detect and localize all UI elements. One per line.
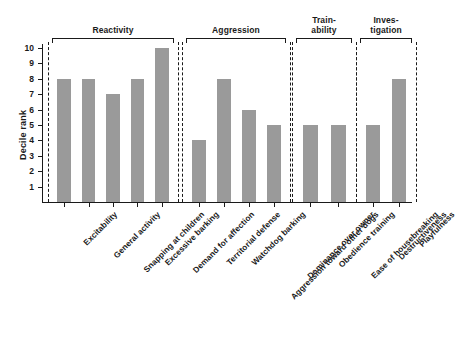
- group-divider: [416, 42, 417, 202]
- x-tick-mark: [199, 203, 200, 207]
- group-label: Reactivity: [38, 26, 188, 36]
- y-axis-line: [42, 44, 43, 203]
- y-tick-label: 3: [6, 152, 34, 161]
- x-tick-mark: [338, 203, 339, 207]
- x-tick-label: General activity: [112, 210, 162, 260]
- x-tick-mark: [162, 203, 163, 207]
- bar: [131, 79, 145, 202]
- group-divider: [48, 42, 49, 202]
- group-bracket: [186, 38, 286, 44]
- x-tick-mark: [89, 203, 90, 207]
- group-label: Aggression: [172, 26, 300, 36]
- x-tick-mark: [399, 203, 400, 207]
- x-tick-mark: [310, 203, 311, 207]
- bar: [303, 125, 318, 202]
- group-bracket: [360, 38, 412, 44]
- group-divider: [182, 42, 183, 202]
- bar: [217, 79, 231, 202]
- bar: [331, 125, 346, 202]
- group-label: Inves- tigation: [346, 16, 426, 35]
- bar: [366, 125, 381, 202]
- group-bracket: [296, 38, 352, 44]
- bar: [242, 110, 256, 202]
- x-tick-mark: [137, 203, 138, 207]
- y-tick-label: 2: [6, 167, 34, 176]
- bar: [82, 79, 96, 202]
- group-bracket: [52, 38, 174, 44]
- y-tick-label: 4: [6, 136, 34, 145]
- x-axis-line: [42, 202, 412, 203]
- bar: [267, 125, 281, 202]
- bar: [392, 79, 407, 202]
- y-tick-label: 9: [6, 59, 34, 68]
- group-divider: [290, 42, 291, 202]
- x-tick-mark: [249, 203, 250, 207]
- bar: [155, 48, 169, 202]
- y-tick-label: 6: [6, 106, 34, 115]
- x-tick-label: Excitability: [82, 210, 119, 247]
- y-tick-label: 1: [6, 183, 34, 192]
- y-tick-label: 5: [6, 121, 34, 130]
- group-divider: [356, 42, 357, 202]
- y-tick-label: 8: [6, 75, 34, 84]
- group-divider: [292, 42, 293, 202]
- bar: [106, 94, 120, 202]
- group-divider: [178, 42, 179, 202]
- x-tick-mark: [274, 203, 275, 207]
- y-tick-label: 10: [6, 44, 34, 53]
- x-tick-mark: [373, 203, 374, 207]
- x-tick-mark: [113, 203, 114, 207]
- bar: [57, 79, 71, 202]
- x-tick-mark: [224, 203, 225, 207]
- y-tick-label: 7: [6, 90, 34, 99]
- bar: [192, 140, 206, 202]
- x-tick-mark: [64, 203, 65, 207]
